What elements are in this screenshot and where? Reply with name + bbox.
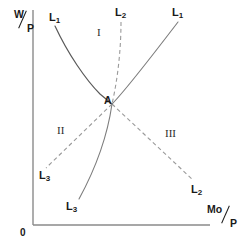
y-axis-denominator: P: [27, 22, 34, 34]
curve-label-l1-upper-left: L1: [49, 12, 60, 23]
curve-L1-right-solid: [112, 22, 178, 104]
curve-label-sub: 1: [179, 11, 183, 20]
curve-L3-lower-solid: [79, 104, 112, 199]
curve-label-sub: 3: [73, 205, 77, 214]
curve-L2-upper-dashed: [112, 22, 121, 104]
curve-L1-left-solid: [55, 26, 112, 104]
curve-label-base: L: [66, 200, 73, 212]
x-axis-label: Mo P: [207, 203, 243, 233]
curve-label-l3-left: L3: [39, 170, 50, 181]
axis-lines: [33, 10, 210, 225]
curve-label-sub: 2: [122, 11, 126, 20]
region-label-iii: III: [165, 128, 176, 139]
diagram-canvas: W P Mo P 0 A I II III L1 L2 L1 L3 L3 L2: [0, 0, 243, 247]
curve-label-sub: 1: [56, 16, 60, 25]
curve-label-base: L: [172, 6, 179, 18]
curve-label-sub: 2: [198, 188, 202, 197]
curve-label-base: L: [115, 6, 122, 18]
region-label-ii: II: [57, 125, 64, 136]
x-axis-denominator: P: [230, 217, 237, 229]
intersection-label-a: A: [104, 95, 112, 106]
curve-label-base: L: [49, 11, 56, 23]
curve-label-l2-upper: L2: [115, 7, 126, 18]
origin-label: 0: [20, 228, 26, 238]
curve-label-sub: 3: [46, 174, 50, 183]
curve-label-l3-lower: L3: [66, 201, 77, 212]
curve-label-base: L: [39, 169, 46, 181]
curve-L2-lower-dashed: [112, 104, 193, 180]
curve-L3-left-dashed: [46, 104, 112, 168]
curve-label-base: L: [191, 183, 198, 195]
x-axis-numerator: Mo: [207, 203, 222, 215]
x-axis-fraction-bar: [221, 206, 230, 224]
curve-label-l1-upper-right: L1: [172, 7, 183, 18]
curve-label-l2-lower: L2: [191, 184, 202, 195]
region-label-i: I: [97, 27, 101, 38]
y-axis-label: W P: [14, 8, 44, 38]
